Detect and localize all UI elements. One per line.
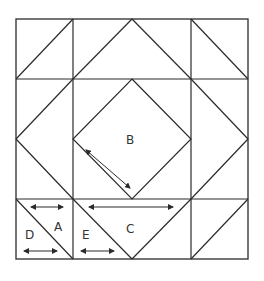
grain-arrow-b xyxy=(86,150,130,188)
label-c: C xyxy=(126,222,134,236)
label-e: E xyxy=(82,228,90,242)
quilt-block-diagram: B A D E C xyxy=(0,0,264,281)
top-row-triangles xyxy=(16,19,248,79)
label-d: D xyxy=(25,228,34,242)
label-a: A xyxy=(54,220,63,234)
label-b: B xyxy=(126,133,134,147)
